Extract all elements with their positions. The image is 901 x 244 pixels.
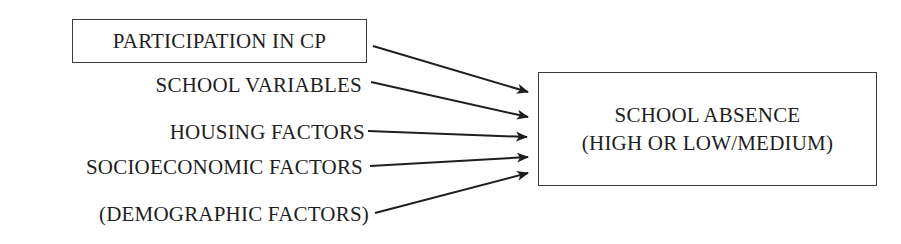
arrow-socio-to-outcome: [370, 157, 528, 166]
school-variables-label: SCHOOL VARIABLES: [156, 75, 362, 96]
arrow-housing-to-outcome: [368, 131, 527, 137]
socioeconomic-factors-label: SOCIOECONOMIC FACTORS: [86, 157, 363, 178]
arrow-cp-to-outcome: [373, 46, 528, 92]
demographic-factors-label: (DEMOGRAPHIC FACTORS): [99, 204, 369, 225]
outcome-subtitle: (HIGH OR LOW/MEDIUM): [582, 129, 833, 157]
school-absence-outcome-box: SCHOOL ABSENCE (HIGH OR LOW/MEDIUM): [538, 72, 877, 186]
arrow-school-to-outcome: [371, 82, 528, 117]
outcome-title: SCHOOL ABSENCE: [615, 101, 801, 129]
participation-in-cp-box: PARTICIPATION IN CP: [72, 19, 367, 63]
housing-factors-label: HOUSING FACTORS: [170, 122, 365, 143]
arrow-demo-to-outcome: [375, 173, 528, 213]
participation-in-cp-label: PARTICIPATION IN CP: [73, 20, 366, 62]
